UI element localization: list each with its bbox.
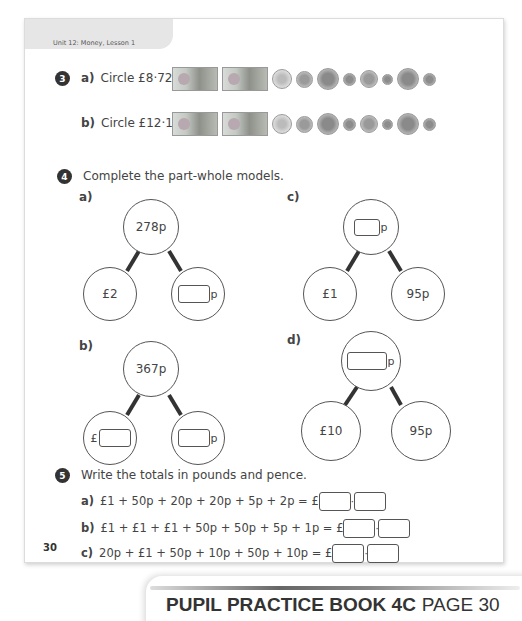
q4-instruction: Complete the part-whole models. (83, 169, 284, 183)
pounds-answer-box[interactable] (319, 492, 351, 511)
two-pound-coin[interactable] (272, 114, 292, 134)
two-pound-coin[interactable] (272, 69, 292, 89)
part-whole-model-a: 278p £2 p (81, 191, 261, 321)
answer-box[interactable] (354, 219, 380, 236)
pence-answer-box[interactable] (378, 519, 410, 538)
unit-label: Unit 12: Money, Lesson 1 (53, 39, 135, 47)
five-pence-coin[interactable] (382, 74, 393, 85)
two-pence-coin[interactable] (397, 113, 419, 135)
part-circle-left: £2 (83, 267, 137, 321)
q4d-label: d) (287, 333, 301, 347)
five-pence-coin[interactable] (382, 119, 393, 130)
part-circle-right: 95p (391, 267, 445, 321)
part-circle-left: £10 (301, 401, 361, 461)
q5b-row: b)£1 + £1 + £1 + 50p + 50p + 5p + 1p = £… (81, 519, 410, 538)
fifty-pence-coin[interactable] (317, 113, 339, 135)
q3b-money-row[interactable] (172, 112, 436, 136)
part-circle-left: £ (83, 411, 137, 465)
one-penny-coin[interactable] (423, 73, 436, 86)
question-number-3: 3 (55, 71, 70, 86)
page-number: 30 (43, 542, 57, 553)
part-whole-model-c: p £1 95p (301, 191, 481, 321)
part-circle-left: £1 (303, 267, 357, 321)
twenty-pound-note[interactable] (172, 112, 218, 136)
banner-divider (150, 586, 520, 590)
twenty-pence-coin[interactable] (343, 118, 356, 131)
whole-circle: p (343, 199, 399, 255)
q3a-money-row[interactable] (172, 67, 436, 91)
pence-answer-box[interactable] (354, 492, 386, 511)
part-whole-model-b: 367p £ p (81, 335, 261, 465)
worksheet-page: Unit 12: Money, Lesson 1 3 a)Circle £8·7… (24, 18, 504, 563)
part-circle-right: p (171, 411, 225, 465)
q5a-row: a)£1 + 50p + 20p + 20p + 5p + 2p = £· (81, 492, 386, 511)
book-page: PAGE 30 (422, 594, 500, 615)
part-circle-right: p (171, 267, 225, 321)
twenty-pence-coin[interactable] (343, 73, 356, 86)
fifty-pence-coin[interactable] (317, 68, 339, 90)
answer-box[interactable] (178, 429, 210, 447)
pounds-answer-box[interactable] (332, 544, 364, 563)
whole-circle: 367p (123, 341, 179, 397)
banner-text: PUPIL PRACTICE BOOK 4CPAGE 30 (166, 594, 500, 616)
answer-box[interactable] (99, 429, 131, 447)
one-penny-coin[interactable] (423, 118, 436, 131)
answer-box[interactable] (178, 285, 210, 303)
one-pound-coin[interactable] (296, 71, 313, 88)
ten-pence-coin[interactable] (360, 70, 378, 88)
part-whole-model-d: p £10 95p (301, 325, 481, 455)
whole-circle: p (341, 331, 401, 391)
book-title: PUPIL PRACTICE BOOK 4C (166, 594, 416, 615)
twenty-pound-note[interactable] (222, 112, 268, 136)
whole-circle: 278p (123, 199, 179, 255)
q5-instruction: Write the totals in pounds and pence. (81, 468, 307, 482)
q3a-prompt: a)Circle £8·72. (81, 71, 176, 85)
twenty-pound-note[interactable] (222, 67, 268, 91)
answer-box[interactable] (347, 352, 387, 370)
question-number-5: 5 (55, 468, 70, 483)
q3b-prompt: b)Circle £12·18. (81, 116, 184, 130)
one-pound-coin[interactable] (296, 116, 313, 133)
pounds-answer-box[interactable] (343, 519, 375, 538)
question-number-4: 4 (57, 169, 72, 184)
ten-pence-coin[interactable] (360, 115, 378, 133)
pence-answer-box[interactable] (367, 544, 399, 563)
twenty-pound-note[interactable] (172, 67, 218, 91)
q5c-row: c)20p + £1 + 50p + 10p + 50p + 10p = £· (81, 544, 399, 563)
two-pence-coin[interactable] (397, 68, 419, 90)
part-circle-right: 95p (391, 401, 451, 461)
q4c-label: c) (287, 190, 300, 204)
